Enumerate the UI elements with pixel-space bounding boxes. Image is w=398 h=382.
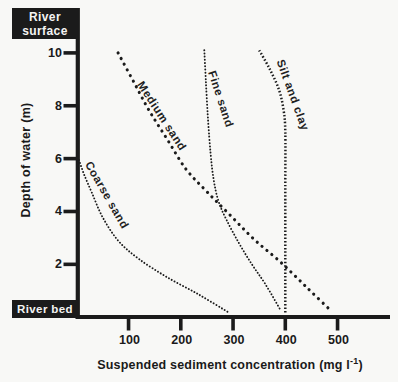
x-tick-label: 200 (162, 333, 202, 348)
y-tick-label: 8 (30, 98, 62, 114)
river-surface-label-line2: surface (12, 24, 78, 38)
river-surface-box: River surface (12, 8, 78, 39)
curve-silt-and-clay (259, 50, 285, 314)
river-bed-label: River bed (17, 303, 73, 315)
y-tick-label: 10 (30, 45, 62, 61)
y-tick-label: 2 (30, 256, 62, 272)
y-tick-label: 6 (30, 151, 62, 167)
river-surface-label-line1: River (12, 10, 78, 24)
x-tick-label: 400 (266, 333, 306, 348)
x-axis-title-close: ) (358, 358, 362, 372)
x-tick-label: 300 (214, 333, 254, 348)
x-axis-title-text: Suspended sediment concentration (mg l (97, 358, 350, 372)
x-axis-title: Suspended sediment concentration (mg l-1… (97, 356, 363, 372)
river-bed-box: River bed (12, 300, 78, 318)
x-axis-title-superscript: -1 (350, 356, 358, 366)
y-tick-label: 4 (30, 203, 62, 219)
x-tick-label: 500 (319, 333, 359, 348)
x-tick-label: 100 (110, 333, 150, 348)
sediment-depth-chart: River surface River bed Depth of water (… (0, 0, 398, 382)
